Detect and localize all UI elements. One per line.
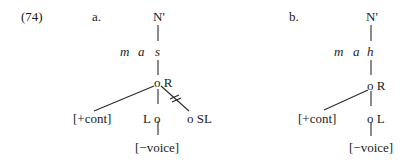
- tree-a-laryngeal-node: o: [154, 112, 161, 125]
- tree-b-segment-h: h: [367, 45, 374, 58]
- tree-a-root-node: o R: [154, 76, 172, 89]
- example-number: (74): [21, 10, 43, 23]
- tree-a-segment-s: s: [155, 45, 160, 58]
- tree-lines: [0, 0, 406, 163]
- tree-b-root: N': [366, 10, 378, 23]
- tree-a-soft-palate-node: o SL: [187, 112, 212, 125]
- tree-a-feature-cont: [+cont]: [73, 112, 111, 125]
- tree-b-feature-voice: [−voice]: [349, 141, 393, 154]
- a-line-R-to-cont: [94, 86, 154, 111]
- tree-b-label: b.: [289, 10, 299, 23]
- tree-a-laryngeal-label: L: [143, 112, 151, 125]
- b-line-R-to-cont: [324, 90, 368, 110]
- tree-b-laryngeal-node: o L: [367, 112, 385, 125]
- a-delink-mark-2: [172, 98, 181, 102]
- tree-a-root: N': [153, 10, 165, 23]
- tree-a-label: a.: [92, 10, 101, 23]
- tree-b-feature-cont: [+cont]: [298, 112, 336, 125]
- tree-b-segment-a: a: [353, 45, 360, 58]
- tree-b-segment-m: m: [334, 45, 343, 58]
- tree-a-feature-voice: [−voice]: [135, 141, 179, 154]
- tree-b-root-node: o R: [367, 79, 385, 92]
- tree-a-segment-a: a: [138, 45, 145, 58]
- tree-a-segment-m: m: [120, 45, 129, 58]
